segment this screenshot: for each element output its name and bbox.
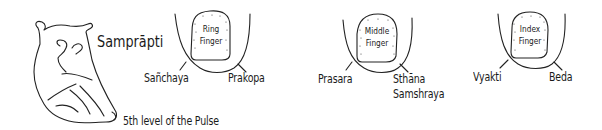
stage-sanchaya: Sañchaya xyxy=(144,71,189,85)
diagram-title: Samprāpti xyxy=(97,32,163,51)
middle-finger-label-line1: Middle xyxy=(363,26,391,37)
index-finger-label-line2: Finger xyxy=(518,36,543,47)
diagram-caption: 5th level of the Pulse xyxy=(123,114,219,128)
stage-samshraya: Samshraya xyxy=(393,87,444,101)
stage-prasara: Prasara xyxy=(318,72,352,86)
stage-prakopa: Prakopa xyxy=(228,71,265,85)
ring-finger-label-line1: Ring xyxy=(199,24,224,35)
ring-finger-label-line2: Finger xyxy=(199,36,224,47)
stage-sthana: Sthāna xyxy=(393,72,425,86)
middle-finger-label-line2: Finger xyxy=(363,38,391,49)
stage-vyakti: Vyakti xyxy=(473,70,501,84)
stage-beda: Beda xyxy=(549,70,572,84)
index-finger-label-line1: Index xyxy=(518,24,543,35)
diagram-drawing xyxy=(0,0,602,130)
